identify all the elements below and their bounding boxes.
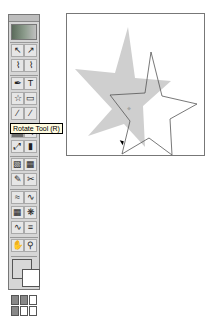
tooltip: Rotate Tool (R) <box>10 123 63 134</box>
palette-titlebar[interactable] <box>9 15 39 22</box>
color-button[interactable] <box>11 295 19 305</box>
paintbrush-tool[interactable]: ∕ <box>11 107 24 120</box>
color-mode-buttons <box>9 295 39 305</box>
pencil-tool[interactable]: ∕ <box>24 107 37 120</box>
selection-tool[interactable]: ↖ <box>11 44 24 57</box>
pen-tool[interactable]: ✒ <box>11 77 24 90</box>
direct-lasso-tool[interactable]: ⌇ <box>24 59 37 72</box>
twirl-tool[interactable]: ∿ <box>24 191 37 204</box>
slice-tool[interactable]: ≡ <box>24 221 37 234</box>
scissors-tool[interactable]: ✂ <box>24 173 37 186</box>
filled-star-shape[interactable] <box>75 27 171 147</box>
stroke-swatch[interactable] <box>22 269 40 287</box>
toolbox-palette: ↖↗ ⌇⌇ ✒T ☆▭ ∕∕ ↻⇋ ⤢▮ ▧▦ ✎✂ ≈∿ ▦❋ ∿≡ ✋⚲ <box>8 14 40 290</box>
gradient-tool[interactable]: ▧ <box>11 158 24 171</box>
artboard[interactable]: ⌖ <box>66 13 205 156</box>
scale-tool[interactable]: ⤢ <box>11 140 24 153</box>
type-tool[interactable]: T <box>24 77 37 90</box>
column-graph-tool[interactable]: ▦ <box>11 206 24 219</box>
blend-tool[interactable]: ∿ <box>11 221 24 234</box>
full-screen-mode[interactable] <box>29 306 37 316</box>
mesh-tool[interactable]: ▦ <box>24 158 37 171</box>
full-screen-menu-mode[interactable] <box>20 306 28 316</box>
none-button[interactable] <box>29 295 37 305</box>
chart-tool[interactable]: ▮ <box>24 140 37 153</box>
zoom-tool[interactable]: ⚲ <box>24 239 37 252</box>
warp-tool[interactable]: ≈ <box>11 191 24 204</box>
rotation-origin-icon[interactable]: ⌖ <box>127 105 131 112</box>
screen-mode-buttons <box>9 306 39 316</box>
gradient-button[interactable] <box>20 295 28 305</box>
star-tool[interactable]: ☆ <box>11 92 24 105</box>
eyedropper-tool[interactable]: ✎ <box>11 173 24 186</box>
color-swatches <box>11 256 37 292</box>
hand-tool[interactable]: ✋ <box>11 239 24 252</box>
standard-screen-mode[interactable] <box>11 306 19 316</box>
lasso-tool[interactable]: ⌇ <box>11 59 24 72</box>
artwork: ⌖ <box>67 14 204 155</box>
symbol-tool[interactable]: ❋ <box>24 206 37 219</box>
rectangle-tool[interactable]: ▭ <box>24 92 37 105</box>
direct-selection-tool[interactable]: ↗ <box>24 44 37 57</box>
app-logo[interactable] <box>11 24 37 40</box>
